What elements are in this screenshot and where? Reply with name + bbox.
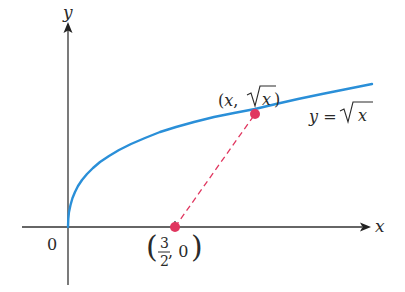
svg-text:(x,: (x, <box>218 91 238 110</box>
radical-sign-icon <box>340 102 373 122</box>
svg-text:): ) <box>191 229 203 264</box>
y-axis <box>64 22 73 285</box>
svg-text:x: x <box>262 90 271 109</box>
svg-text:, 0: , 0 <box>168 242 188 261</box>
origin-label: 0 <box>47 235 57 254</box>
svg-text:x: x <box>358 106 367 125</box>
point-on-curve <box>250 109 260 119</box>
svg-text:): ) <box>274 90 280 109</box>
curve-equation-label: y = x <box>308 102 373 126</box>
svg-text:(: ( <box>146 229 158 264</box>
sqrt-curve-line <box>68 113 255 227</box>
svg-text:y =: y = <box>308 107 337 126</box>
sqrt-distance-diagram: y x 0 (x, x ) y = x ( 3 2 , 0 ) <box>0 0 405 292</box>
y-axis-label: y <box>62 2 73 22</box>
point-on-axis-label: ( 3 2 , 0 ) <box>146 229 203 269</box>
point-on-curve-label: (x, x ) <box>218 86 280 110</box>
x-axis-label: x <box>375 216 385 236</box>
distance-connector <box>175 114 255 227</box>
point-on-axis <box>170 222 180 232</box>
